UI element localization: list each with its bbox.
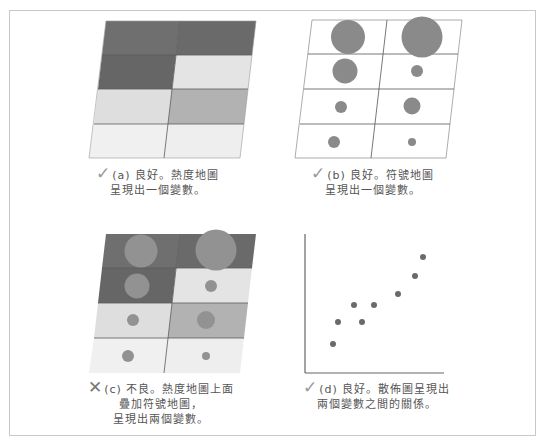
caption-a-line2: 呈現出一個變數。 (96, 183, 219, 198)
caption-a: ✓(a) 良好。熱度地圖 呈現出一個變數。 (96, 166, 219, 198)
panel-c-heatmap-with-symbols (89, 230, 256, 374)
panel-d-scatter-plot (305, 234, 444, 373)
check-icon: ✓ (96, 166, 111, 181)
caption-b: ✓(b) 良好。符號地圖 呈現出一個變數。 (311, 166, 434, 198)
caption-b-line2: 呈現出一個變數。 (311, 183, 434, 198)
caption-c-line1: (c) 不良。熱度地圖上面 (104, 383, 234, 396)
check-icon: ✓ (303, 380, 318, 395)
caption-c-line2: 疊加符號地圖， (88, 397, 234, 412)
check-icon: ✓ (311, 166, 326, 181)
caption-d: ✓(d) 良好。散佈圖呈現出 兩個變數之間的關係。 (303, 380, 450, 412)
panel-b-symbol-map (295, 17, 462, 159)
caption-c: ✕(c) 不良。熱度地圖上面 疊加符號地圖， 呈現出兩個變數。 (88, 380, 234, 427)
caption-b-line1: (b) 良好。符號地圖 (327, 169, 434, 182)
caption-d-line1: (d) 良好。散佈圖呈現出 (319, 383, 450, 396)
caption-d-line2: 兩個變數之間的關係。 (303, 397, 450, 412)
caption-c-line3: 呈現出兩個變數。 (88, 412, 234, 427)
caption-a-line1: (a) 良好。熱度地圖 (112, 169, 219, 182)
panel-a-heatmap (89, 21, 256, 158)
cross-icon: ✕ (88, 380, 103, 395)
figure-canvas (0, 0, 545, 445)
